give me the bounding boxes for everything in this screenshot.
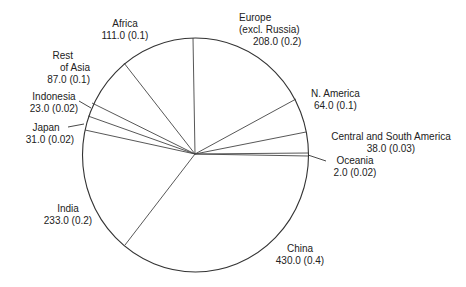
label-japan-value: 31.0 (0.02) <box>22 134 78 146</box>
label-csamerica-value: 38.0 (0.03) <box>318 143 464 155</box>
label-indonesia: Indonesia 23.0 (0.02) <box>26 91 82 115</box>
label-central-south-america: Central and South America 38.0 (0.03) <box>318 131 464 155</box>
label-oceania-name: Oceania <box>325 155 385 167</box>
label-india-name: India <box>38 203 98 215</box>
leader-oceania <box>308 155 326 161</box>
label-europe: Europe (excl. Russia) 208.0 (0.2) <box>239 12 319 48</box>
label-indonesia-value: 23.0 (0.02) <box>26 103 82 115</box>
label-rest-of-asia-line2: of Asia <box>40 62 90 74</box>
label-n-america: N. America 64.0 (0.1) <box>311 88 381 112</box>
label-japan-name: Japan <box>22 122 78 134</box>
label-oceania: Oceania 2.0 (0.02) <box>325 155 385 179</box>
label-china-value: 430.0 (0.4) <box>265 255 335 267</box>
label-africa-value: 111.0 (0.1) <box>95 30 155 42</box>
label-csamerica-name: Central and South America <box>318 131 464 143</box>
label-rest-of-asia-line1: Rest <box>40 50 90 62</box>
label-europe-line1: Europe <box>239 12 319 24</box>
pie-chart: Africa 111.0 (0.1) Rest of Asia 87.0 (0.… <box>0 0 466 287</box>
label-namerica-name: N. America <box>311 88 381 100</box>
label-namerica-value: 64.0 (0.1) <box>311 100 381 112</box>
label-china: China 430.0 (0.4) <box>265 243 335 267</box>
label-japan: Japan 31.0 (0.02) <box>22 122 78 146</box>
label-indonesia-name: Indonesia <box>26 91 82 103</box>
label-india: India 233.0 (0.2) <box>38 203 98 227</box>
label-oceania-value: 2.0 (0.02) <box>325 167 385 179</box>
label-europe-line2: (excl. Russia) <box>239 24 319 36</box>
label-europe-value: 208.0 (0.2) <box>239 36 319 48</box>
label-rest-of-asia: Rest of Asia 87.0 (0.1) <box>40 50 90 86</box>
label-africa: Africa 111.0 (0.1) <box>95 18 155 42</box>
label-rest-of-asia-value: 87.0 (0.1) <box>40 74 90 86</box>
label-china-name: China <box>265 243 335 255</box>
label-india-value: 233.0 (0.2) <box>38 215 98 227</box>
label-africa-name: Africa <box>95 18 155 30</box>
